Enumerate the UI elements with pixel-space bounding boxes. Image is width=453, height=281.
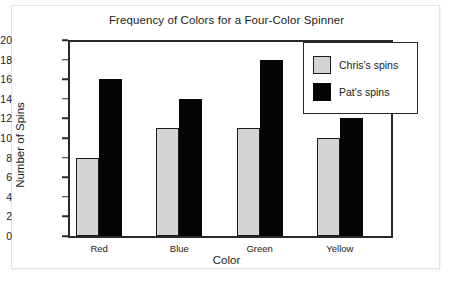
bar [237, 128, 260, 236]
y-axis: Number of Spins 20181614121086420 [0, 0, 68, 281]
x-axis-title: Color [0, 254, 453, 266]
legend-item[interactable]: Chris's spins [313, 51, 417, 78]
legend: Chris's spinsPat's spins [303, 42, 418, 114]
legend-label: Chris's spins [339, 59, 398, 71]
y-tick-label: 10 [0, 132, 12, 144]
legend-item[interactable]: Pat's spins [313, 78, 417, 105]
bar [340, 118, 363, 236]
y-tick-label: 20 [0, 34, 12, 46]
legend-swatch-icon [313, 56, 331, 74]
bar [260, 60, 283, 236]
x-tick-label: Red [69, 243, 129, 254]
bar [179, 99, 202, 236]
y-tick-label: 6 [0, 171, 12, 183]
chart-page: Frequency of Colors for a Four-Color Spi… [0, 0, 453, 281]
legend-swatch-icon [313, 83, 331, 101]
y-tick-label: 4 [0, 191, 12, 203]
y-tick-label: 8 [0, 152, 12, 164]
x-tick-label: Green [230, 243, 290, 254]
x-tick-label: Blue [149, 243, 209, 254]
y-axis-title: Number of Spins [14, 65, 26, 225]
bar [99, 79, 122, 236]
bar [317, 138, 340, 236]
y-tick-label: 2 [0, 210, 12, 222]
bar [156, 128, 179, 236]
y-tick-label: 16 [0, 73, 12, 85]
bar-group [156, 40, 202, 236]
y-tick-label: 12 [0, 112, 12, 124]
bar [76, 158, 99, 236]
y-tick-label: 14 [0, 93, 12, 105]
y-tick-label: 18 [0, 54, 12, 66]
x-tick-label: Yellow [310, 243, 370, 254]
legend-label: Pat's spins [339, 86, 389, 98]
y-tick-label: 0 [0, 230, 12, 242]
bar-group [76, 40, 122, 236]
bar-group [237, 40, 283, 236]
